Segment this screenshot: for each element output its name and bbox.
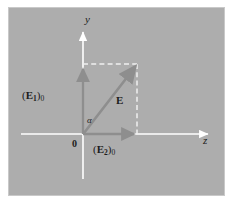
resultant-vector: [84, 67, 135, 133]
vector-diagram-svg: [9, 8, 225, 196]
figure-panel: y z 0 (E1)0 (E2)0 E α: [8, 7, 225, 196]
figure-container: y z 0 (E1)0 (E2)0 E α: [0, 0, 233, 204]
